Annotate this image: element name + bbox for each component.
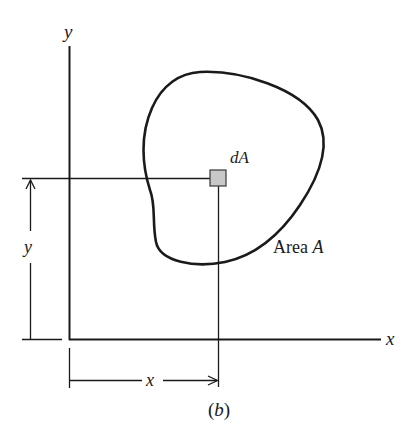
da-element bbox=[210, 170, 226, 186]
da-label: dA bbox=[230, 148, 250, 167]
area-moment-diagram: y x Area A dA y x (b) bbox=[0, 0, 418, 441]
x-dimension-label: x bbox=[145, 370, 154, 390]
y-dimension-label: y bbox=[22, 237, 32, 257]
area-region-outline bbox=[144, 72, 324, 264]
figure-caption: (b) bbox=[208, 399, 230, 421]
area-label: Area A bbox=[273, 237, 324, 257]
x-axis-label: x bbox=[385, 328, 395, 349]
y-axis-label: y bbox=[62, 21, 73, 42]
